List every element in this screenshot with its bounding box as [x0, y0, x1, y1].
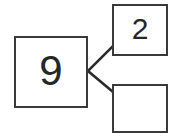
connector-line-top	[88, 46, 113, 71]
part-number-box-bottom[interactable]	[112, 84, 168, 133]
whole-number-value: 9	[39, 50, 62, 92]
whole-number-box[interactable]: 9	[14, 36, 88, 108]
part-number-box-top[interactable]: 2	[112, 4, 168, 56]
connector-line-bottom	[88, 71, 113, 92]
part-number-value-top: 2	[132, 14, 149, 44]
number-bond-diagram: 9 2	[0, 0, 177, 138]
